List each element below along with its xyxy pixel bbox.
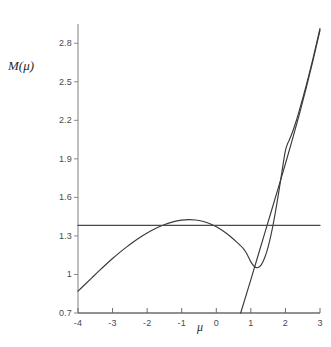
y-tick-label: 1.3 — [40, 231, 72, 241]
y-axis-title: M(μ) — [8, 58, 34, 74]
x-tick-label: 1 — [248, 318, 253, 328]
x-axis-title: μ — [197, 320, 203, 335]
x-tick-label: -3 — [108, 318, 116, 328]
series-path — [241, 30, 320, 313]
y-tick-label: 2.8 — [40, 38, 72, 48]
y-tick-label: 1 — [40, 269, 72, 279]
y-tick-label: 1.9 — [40, 154, 72, 164]
x-axis-title-text: μ — [197, 320, 203, 334]
x-tick-label: 2 — [283, 318, 288, 328]
x-tick-label: 3 — [317, 318, 322, 328]
x-tick-label: -4 — [74, 318, 82, 328]
x-tick-label: 0 — [214, 318, 219, 328]
series-path — [78, 29, 320, 292]
chart-figure: 0.711.31.61.92.22.52.8 -4-3-2-10123 M(μ)… — [0, 0, 331, 347]
y-tick-label: 2.2 — [40, 115, 72, 125]
x-tick-label: -2 — [143, 318, 151, 328]
axes-group — [74, 24, 320, 313]
plot-canvas — [0, 0, 331, 347]
y-axis-ticks — [74, 43, 78, 313]
y-tick-label: 1.6 — [40, 192, 72, 202]
x-tick-label: -1 — [178, 318, 186, 328]
data-series-group — [78, 29, 320, 314]
y-tick-label: 0.7 — [40, 308, 72, 318]
y-axis-title-m: M(μ) — [8, 58, 34, 73]
y-tick-label: 2.5 — [40, 77, 72, 87]
